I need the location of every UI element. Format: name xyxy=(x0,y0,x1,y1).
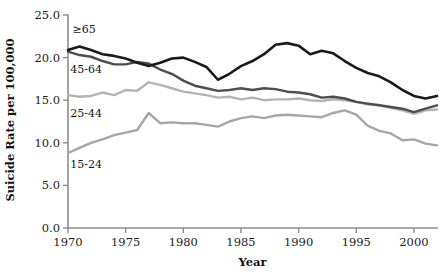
x-axis: 1970197519801985199019952000 xyxy=(53,228,437,249)
series-label-2544: 25-44 xyxy=(70,107,102,120)
x-tick-label: 1990 xyxy=(284,235,313,249)
y-tick-label: 10.0 xyxy=(34,136,60,150)
y-tick-label: 15.0 xyxy=(34,93,60,107)
series-line-1524 xyxy=(68,110,437,153)
chart-figure: 0.05.010.015.020.025.0 19701975198019851… xyxy=(0,0,444,272)
series-lines xyxy=(68,43,437,153)
series-label-65: ≥65 xyxy=(73,23,96,36)
x-axis-title: Year xyxy=(237,255,267,269)
series-label-1524: 15-24 xyxy=(70,158,102,171)
x-tick-label: 1995 xyxy=(342,235,371,249)
y-tick-label: 5.0 xyxy=(42,178,60,192)
y-tick-label: 20.0 xyxy=(34,51,60,65)
y-axis-title: Suicide Rate per 100,000 xyxy=(3,38,17,201)
x-tick-label: 2000 xyxy=(399,235,428,249)
y-tick-label: 25.0 xyxy=(34,8,60,22)
x-tick-label: 1975 xyxy=(111,235,140,249)
series-line-2544 xyxy=(68,82,437,114)
line-chart-svg: 0.05.010.015.020.025.0 19701975198019851… xyxy=(0,0,444,272)
series-label-4564: 45-64 xyxy=(70,63,102,76)
x-tick-label: 1970 xyxy=(53,235,82,249)
x-tick-label: 1985 xyxy=(226,235,255,249)
y-tick-label: 0.0 xyxy=(42,221,60,235)
x-tick-label: 1980 xyxy=(169,235,198,249)
y-axis: 0.05.010.015.020.025.0 xyxy=(34,8,68,235)
